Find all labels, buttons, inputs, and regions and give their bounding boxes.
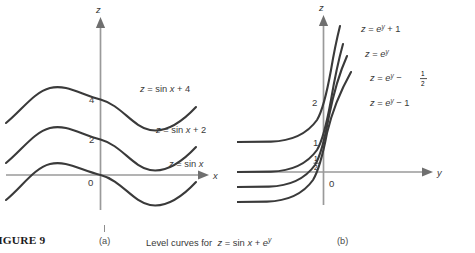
panel-a-sine-curves: x z 4 2 0 z = sin x + 4 z = sin x + 2 z … <box>0 0 237 232</box>
panel-b-tick-1: 1 <box>313 137 318 148</box>
panel-a-label-sin-x: z = sin x <box>168 159 204 169</box>
panel-a-z-axis-arrowhead <box>96 17 105 28</box>
panel-b-origin-label: 0 <box>329 178 334 189</box>
figure-number-label: FIGURE 9 <box>0 234 45 246</box>
svg-text:z = ey −: z = ey − <box>369 72 402 83</box>
panel-a-origin-label: 0 <box>88 177 93 188</box>
panel-b-curve-exp-plus-1 <box>237 26 340 142</box>
panel-a-x-axis-arrowhead <box>198 170 209 179</box>
panel-b-tag: (b) <box>337 236 348 246</box>
panel-b-label-exp-minus-half: z = ey − 1 2 <box>369 70 427 87</box>
panel-b-tick-2: 2 <box>312 97 317 108</box>
panel-b-exponential-curves: y z 2 1 1 2 0 z = ey + 1 z = ey <box>237 0 475 232</box>
panel-a-z-axis-label: z <box>95 4 101 15</box>
caption-bar: FIGURE 9 (a) (b) Level curves for z = si… <box>0 232 475 253</box>
panel-b-curve-exp <box>237 44 343 172</box>
caption-tick-divider <box>104 225 105 232</box>
figure-9: x z 4 2 0 z = sin x + 4 z = sin x + 2 z … <box>0 0 475 253</box>
panel-b-label-exp: z = ey <box>364 48 389 59</box>
panel-b-label-exp-plus-1: z = ey + 1 <box>360 23 401 34</box>
panel-b-y-axis-label: y <box>436 167 443 178</box>
caption-text: Level curves for z = sin x + ey <box>146 236 271 248</box>
panel-a-label-sin-x-plus-2: z = sin x + 2 <box>155 125 206 135</box>
panel-b-label-half-denominator: 2 <box>421 80 425 87</box>
panel-a-label-sin-x-plus-4: z = sin x + 4 <box>139 84 190 94</box>
panel-b-y-axis-arrowhead <box>422 167 433 176</box>
panel-b-z-axis-label: z <box>318 2 324 13</box>
panel-b-label-exp-minus-1: z = ey − 1 <box>369 97 410 108</box>
caption-prefix: Level curves for <box>146 237 212 248</box>
panel-a-x-axis-label: x <box>212 170 218 181</box>
panel-b-label-half-numerator: 1 <box>421 70 425 77</box>
panel-b-z-axis-arrowhead <box>319 15 328 26</box>
panel-a-tag: (a) <box>99 236 110 246</box>
